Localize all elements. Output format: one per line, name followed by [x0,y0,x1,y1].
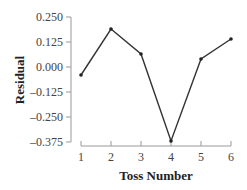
data-point [109,27,113,31]
y-tick-label: –0.125 [29,85,63,99]
y-axis: 0.2500.1250.000–0.125–0.250–0.375 [29,10,71,149]
y-tick-label: 0.125 [36,35,63,49]
x-tick-label: 3 [138,150,144,164]
y-tick-label: –0.250 [29,110,63,124]
data-point [169,139,173,143]
residual-line-chart: 0.2500.1250.000–0.125–0.250–0.375 123456… [0,0,247,190]
data-point [79,73,83,77]
x-axis: 123456 [78,141,234,164]
x-tick-label: 4 [168,150,174,164]
y-tick-label: 0.000 [36,60,63,74]
plot-area [79,27,233,143]
y-tick-label: 0.250 [36,10,63,24]
y-tick-label: –0.375 [29,135,63,149]
x-tick-label: 5 [198,150,204,164]
x-axis-title: Toss Number [119,168,193,183]
x-tick-label: 6 [228,150,234,164]
residual-line [81,29,231,141]
x-tick-label: 2 [108,150,114,164]
data-point [229,37,233,41]
y-axis-title: Residual [12,55,27,104]
x-tick-label: 1 [78,150,84,164]
data-point [139,52,143,56]
data-point [199,57,203,61]
